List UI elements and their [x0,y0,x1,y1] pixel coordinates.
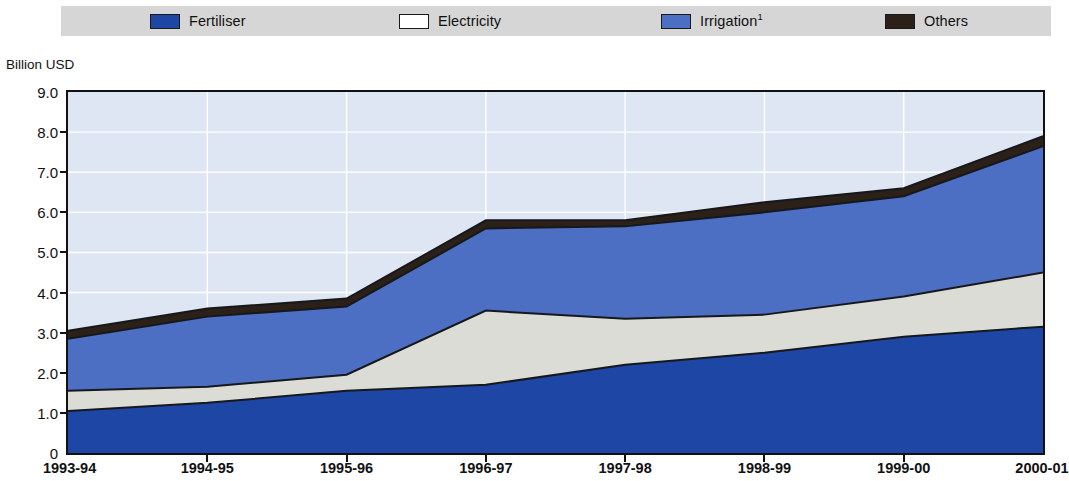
y-axis-tick-mark [60,131,67,133]
legend-item-electricity: Electricity [399,6,501,36]
y-axis-tick-mark [60,251,67,253]
x-axis-tick-label: 1996-97 [459,460,512,476]
y-axis-tick-label: 9.0 [6,84,58,101]
legend-item-irrigation: Irrigation1 [661,6,763,36]
y-axis-tick-label: 8.0 [6,124,58,141]
x-axis-tick-label: 1995-96 [320,460,373,476]
x-axis-tick-mark [763,455,765,462]
y-axis: 9.08.07.06.05.04.03.02.01.00 [0,0,58,481]
legend-swatch-others-icon [885,14,915,29]
x-axis-tick-label: 1997-98 [599,460,652,476]
legend-label-fertiliser: Fertiliser [189,13,246,29]
x-axis: 1993-941994-951995-961996-971997-981998-… [0,460,1051,481]
x-axis-tick-label: 2000-01 [1015,460,1068,476]
legend-item-fertiliser: Fertiliser [150,6,246,36]
y-axis-tick-label: 7.0 [6,164,58,181]
y-axis-tick-label: 1.0 [6,404,58,421]
y-axis-tick-label: 3.0 [6,324,58,341]
y-axis-tick-mark [60,171,67,173]
legend-swatch-irrigation-icon [661,14,691,29]
legend-item-others: Others [885,6,968,36]
y-axis-tick-label: 6.0 [6,204,58,221]
legend-swatch-fertiliser-icon [150,14,180,29]
x-axis-tick-mark [903,455,905,462]
y-axis-tick-label: 5.0 [6,244,58,261]
y-axis-tick-mark [60,332,67,334]
legend-footnote-marker: 1 [757,11,762,22]
chart-legend: FertiliserElectricityIrrigation1Others [61,6,1051,36]
y-axis-tick-label: 2.0 [6,364,58,381]
y-axis-tick-mark [60,292,67,294]
chart-plot-area [66,90,1045,455]
y-axis-tick-label: 0 [6,445,58,462]
y-axis-tick-mark [60,372,67,374]
legend-swatch-electricity-icon [399,14,429,29]
legend-label-others: Others [924,13,968,29]
x-axis-tick-mark [206,455,208,462]
stacked-area-svg [68,92,1043,453]
x-axis-tick-mark [485,455,487,462]
y-axis-tick-label: 4.0 [6,284,58,301]
x-axis-tick-label: 1999-00 [877,460,930,476]
y-axis-tick-mark [60,412,67,414]
x-axis-tick-label: 1994-95 [181,460,234,476]
x-axis-tick-label: 1998-99 [738,460,791,476]
y-axis-tick-mark [60,211,67,213]
legend-label-electricity: Electricity [438,13,501,29]
x-axis-tick-mark [346,455,348,462]
x-axis-tick-mark [624,455,626,462]
legend-label-irrigation: Irrigation1 [700,13,763,29]
x-axis-tick-label: 1993-94 [43,460,96,476]
